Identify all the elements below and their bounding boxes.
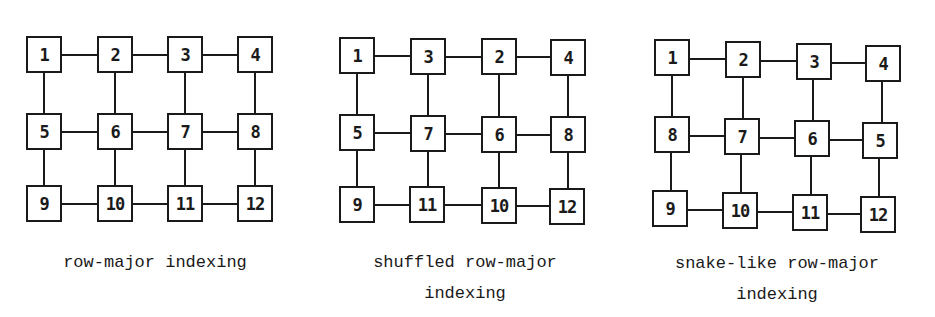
row-major-diagram: 123456789101112row-major indexing — [0, 0, 310, 317]
mesh-link-horizontal — [690, 135, 724, 137]
processor-node: 4 — [237, 36, 273, 73]
mesh-link-vertical — [356, 74, 358, 114]
processor-node: 6 — [97, 113, 133, 150]
mesh-link-vertical — [810, 157, 812, 194]
processor-node: 9 — [652, 190, 688, 227]
mesh-link-vertical — [671, 76, 673, 116]
mesh-link-vertical — [356, 151, 358, 186]
mesh-link-vertical — [184, 73, 186, 113]
processor-node: 5 — [862, 122, 898, 159]
processor-node: 7 — [410, 115, 446, 152]
mesh-link-vertical — [742, 78, 744, 118]
mesh-link-horizontal — [445, 204, 481, 206]
mesh-link-horizontal — [760, 137, 794, 139]
processor-node: 3 — [410, 38, 446, 75]
processor-node: 10 — [481, 187, 517, 224]
mesh-link-horizontal — [830, 139, 862, 141]
processor-node: 5 — [339, 114, 375, 151]
mesh-link-horizontal — [62, 54, 97, 56]
row-major-caption: row-major indexing — [0, 247, 310, 278]
processor-node: 7 — [724, 118, 760, 155]
processor-node: 8 — [237, 113, 273, 150]
processor-node: 2 — [725, 41, 761, 78]
mesh-link-horizontal — [375, 204, 409, 206]
mesh-link-vertical — [254, 73, 256, 113]
mesh-link-horizontal — [375, 55, 410, 57]
processor-node: 9 — [339, 186, 375, 223]
mesh-link-horizontal — [690, 58, 725, 60]
processor-node: 4 — [865, 45, 901, 82]
processor-node: 11 — [167, 185, 203, 222]
mesh-link-vertical — [878, 159, 880, 196]
mesh-link-vertical — [567, 76, 569, 116]
mesh-link-horizontal — [688, 209, 722, 211]
mesh-link-horizontal — [133, 131, 167, 133]
mesh-link-horizontal — [446, 133, 481, 135]
processor-node: 1 — [339, 37, 375, 74]
mesh-link-vertical — [567, 153, 569, 188]
mesh-link-vertical — [812, 80, 814, 120]
mesh-link-horizontal — [62, 203, 97, 205]
processor-node: 12 — [549, 188, 585, 225]
mesh-link-vertical — [498, 153, 500, 187]
mesh-link-vertical — [498, 75, 500, 116]
mesh-link-horizontal — [375, 132, 410, 134]
shuffled-row-major-caption-line2: indexing — [310, 278, 620, 309]
mesh-link-horizontal — [832, 62, 865, 64]
mesh-link-vertical — [427, 75, 429, 115]
mesh-link-horizontal — [758, 211, 792, 213]
processor-node: 6 — [794, 120, 830, 157]
processor-node: 2 — [97, 36, 133, 73]
processor-node: 10 — [722, 192, 758, 229]
mesh-link-vertical — [43, 150, 45, 185]
mesh-link-horizontal — [517, 56, 550, 58]
mesh-link-vertical — [427, 152, 429, 186]
snake-like-row-major-caption: snake-like row-major — [622, 248, 932, 279]
mesh-link-horizontal — [133, 203, 167, 205]
processor-node: 8 — [654, 116, 690, 153]
processor-node: 5 — [26, 113, 62, 150]
mesh-link-vertical — [254, 150, 256, 185]
processor-node: 9 — [26, 185, 62, 222]
mesh-link-horizontal — [203, 203, 237, 205]
processor-node: 12 — [860, 196, 896, 233]
mesh-link-vertical — [184, 150, 186, 185]
mesh-link-horizontal — [517, 134, 550, 136]
processor-node: 11 — [792, 194, 828, 231]
processor-node: 3 — [796, 43, 832, 80]
processor-node: 10 — [97, 185, 133, 222]
mesh-link-vertical — [881, 82, 883, 122]
processor-node: 2 — [481, 38, 517, 75]
mesh-link-horizontal — [203, 54, 237, 56]
processor-node: 6 — [481, 116, 517, 153]
shuffled-row-major-caption: shuffled row-major — [310, 247, 620, 278]
mesh-link-vertical — [114, 73, 116, 113]
mesh-link-horizontal — [761, 60, 796, 62]
shuffled-row-major-diagram: 132457689111012shuffled row-majorindexin… — [310, 0, 620, 317]
mesh-link-horizontal — [203, 131, 237, 133]
processor-node: 1 — [654, 39, 690, 76]
mesh-link-horizontal — [62, 131, 97, 133]
processor-node: 3 — [167, 36, 203, 73]
mesh-link-vertical — [114, 150, 116, 185]
processor-node: 7 — [167, 113, 203, 150]
processor-node: 12 — [237, 185, 273, 222]
processor-node: 4 — [550, 39, 586, 76]
mesh-link-vertical — [670, 153, 672, 190]
snake-like-row-major-caption-line2: indexing — [622, 279, 932, 310]
snake-like-row-major-diagram: 123487659101112snake-like row-majorindex… — [620, 0, 935, 317]
mesh-link-horizontal — [133, 54, 167, 56]
processor-node: 11 — [409, 186, 445, 223]
processor-node: 8 — [550, 116, 586, 153]
mesh-link-horizontal — [446, 56, 481, 58]
processor-node: 1 — [26, 36, 62, 73]
mesh-link-horizontal — [828, 213, 860, 215]
mesh-link-vertical — [43, 73, 45, 113]
mesh-link-horizontal — [517, 205, 549, 207]
mesh-link-vertical — [740, 155, 742, 192]
